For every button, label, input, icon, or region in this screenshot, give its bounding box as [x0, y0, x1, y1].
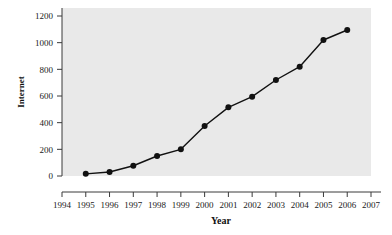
chart-canvas: 020040060080010001200 199419951996199719… — [0, 0, 392, 235]
plot-area-background — [62, 8, 371, 176]
data-point — [107, 169, 113, 175]
x-tick-label: 1996 — [101, 200, 120, 210]
x-tick-label: 2005 — [314, 200, 333, 210]
data-point — [297, 64, 303, 70]
x-tick-label: 1998 — [148, 200, 167, 210]
data-point — [202, 123, 208, 129]
data-point — [225, 104, 231, 110]
x-tick-marks — [62, 192, 371, 197]
x-axis-title: Year — [211, 215, 232, 226]
x-tick-label: 2007 — [362, 200, 381, 210]
data-point — [83, 171, 89, 177]
x-tick-label: 1999 — [172, 200, 191, 210]
x-tick-label: 2003 — [267, 200, 286, 210]
y-tick-label: 200 — [40, 145, 54, 155]
x-tick-label: 2000 — [196, 200, 215, 210]
y-tick-marks — [57, 16, 62, 176]
data-point — [249, 94, 255, 100]
y-tick-labels: 020040060080010001200 — [35, 11, 54, 181]
data-point — [154, 153, 160, 159]
data-point — [320, 37, 326, 43]
data-point — [344, 27, 350, 33]
internet-line-chart: 020040060080010001200 199419951996199719… — [0, 0, 392, 235]
x-tick-label: 1994 — [53, 200, 72, 210]
x-tick-label: 1995 — [77, 200, 96, 210]
x-tick-label: 2004 — [291, 200, 310, 210]
y-tick-label: 0 — [49, 171, 54, 181]
x-tick-label: 1997 — [124, 200, 143, 210]
x-tick-label: 2001 — [219, 200, 237, 210]
x-tick-label: 2002 — [243, 200, 261, 210]
data-point — [130, 163, 136, 169]
y-tick-label: 1000 — [35, 38, 54, 48]
x-tick-label: 2006 — [338, 200, 357, 210]
y-tick-label: 400 — [40, 118, 54, 128]
x-tick-labels: 1994199519961997199819992000200120022003… — [53, 200, 381, 210]
y-tick-label: 1200 — [35, 11, 54, 21]
y-tick-label: 600 — [40, 91, 54, 101]
y-tick-label: 800 — [40, 65, 54, 75]
data-point — [178, 146, 184, 152]
y-axis-title: Internet — [16, 76, 26, 108]
data-point — [273, 77, 279, 83]
